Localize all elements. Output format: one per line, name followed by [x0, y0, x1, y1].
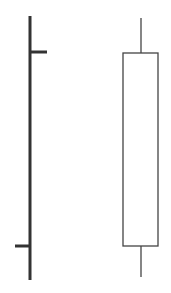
- ohlc-vs-candlestick-diagram: [0, 0, 171, 293]
- ohlc-bar: [15, 16, 47, 280]
- candlestick: [123, 18, 158, 277]
- candle-body: [123, 53, 158, 246]
